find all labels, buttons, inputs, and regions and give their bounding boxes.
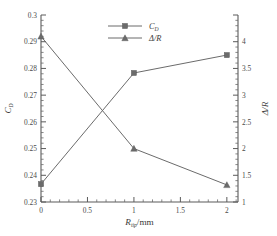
- y-left-tick-label: 0.23: [24, 198, 37, 207]
- data-point-square: [224, 52, 229, 57]
- y-left-tick-label: 0.28: [24, 64, 37, 73]
- legend-label-1: CD: [149, 22, 159, 32]
- y-right-tick-label: 3.5: [242, 64, 252, 73]
- series-line: [41, 36, 227, 185]
- y-right-tick-label: 2.5: [242, 118, 252, 127]
- y-left-tick-label: 0.27: [24, 91, 37, 100]
- axes: 00.511.520.230.240.250.260.270.280.290.3…: [24, 11, 251, 215]
- y-right-tick-label: 2: [242, 144, 246, 153]
- series-2: [38, 33, 230, 187]
- data-series: [38, 33, 230, 187]
- y-axis-right-title: Δ/R: [260, 101, 270, 116]
- chart-legend: CDΔ/R: [108, 22, 161, 43]
- x-tick-label: 1.5: [176, 206, 186, 215]
- x-axis-title: Rtip/mm: [124, 217, 153, 228]
- legend-marker-square: [122, 23, 127, 28]
- chart-plot-area: 00.511.520.230.240.250.260.270.280.290.3…: [0, 0, 277, 236]
- y-axis-left-title: CD: [3, 103, 14, 113]
- y-right-tick-label: 4: [242, 37, 246, 46]
- data-point-square: [38, 182, 43, 187]
- series-1: [38, 52, 229, 186]
- y-left-tick-label: 0.29: [24, 37, 37, 46]
- y-left-tick-label: 0.24: [24, 171, 37, 180]
- data-point-triangle: [224, 182, 230, 188]
- y-right-tick-label: 1: [242, 198, 246, 207]
- y-left-tick-label: 0.25: [24, 144, 37, 153]
- x-tick-label: 0: [39, 206, 43, 215]
- y-right-tick-label: 3: [242, 91, 246, 100]
- x-tick-label: 0.5: [83, 206, 93, 215]
- x-tick-label: 2: [225, 206, 229, 215]
- y-left-tick-label: 0.26: [24, 118, 37, 127]
- data-point-square: [131, 70, 136, 75]
- y-left-tick-label: 0.3: [28, 11, 38, 20]
- legend-label-2: Δ/R: [148, 34, 161, 43]
- y-right-tick-label: 1.5: [242, 171, 252, 180]
- chart-figure: 00.511.520.230.240.250.260.270.280.290.3…: [0, 0, 277, 236]
- x-tick-label: 1: [132, 206, 136, 215]
